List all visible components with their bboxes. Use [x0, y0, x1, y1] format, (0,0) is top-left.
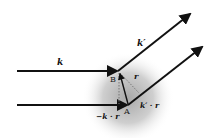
label-minus-k-dot-r: −k · r — [96, 112, 120, 121]
scattering-diagram: k k′ B r A −k · r k′ · r — [0, 0, 215, 138]
label-point-b: B — [110, 75, 116, 84]
scattering-sphere — [82, 52, 174, 138]
label-k-prime-dot-r: k′ · r — [140, 101, 160, 110]
label-k: k — [57, 57, 63, 67]
label-k-prime: k′ — [137, 38, 146, 48]
label-point-a: A — [123, 107, 130, 116]
